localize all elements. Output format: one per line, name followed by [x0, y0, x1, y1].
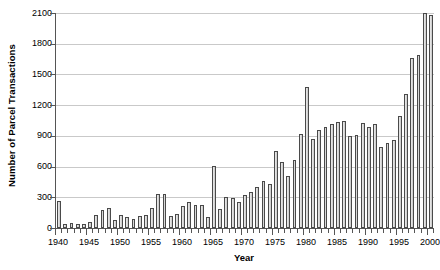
- x-tick: [433, 228, 434, 233]
- bar: [255, 187, 259, 228]
- bar: [286, 176, 290, 228]
- x-tick: [402, 228, 403, 233]
- x-tick-label-1990: 1990: [358, 237, 378, 247]
- y-tick-label-1800: 1800: [32, 39, 52, 48]
- bar: [156, 194, 160, 228]
- bar: [361, 123, 365, 228]
- x-tick: [80, 228, 81, 233]
- bar: [181, 206, 185, 228]
- bar: [187, 202, 191, 228]
- x-tick: [334, 228, 335, 235]
- x-tick: [321, 228, 322, 233]
- x-tick: [266, 228, 267, 233]
- x-tick: [154, 228, 155, 233]
- bar: [417, 55, 421, 228]
- bar: [342, 121, 346, 229]
- x-axis-tick-labels: 1940194519501955196019651970197519801985…: [55, 237, 433, 251]
- bar: [410, 58, 414, 228]
- x-tick-label-2000: 2000: [420, 237, 440, 247]
- x-tick: [179, 228, 180, 235]
- y-axis-tick-labels: 03006009001200150018002100: [22, 0, 52, 235]
- x-tick: [105, 228, 106, 233]
- x-tick-label-1975: 1975: [265, 237, 285, 247]
- x-tick: [204, 228, 205, 233]
- x-tick: [241, 228, 242, 235]
- x-tick: [216, 228, 217, 233]
- x-tick: [222, 228, 223, 233]
- x-tick: [359, 228, 360, 233]
- x-tick: [290, 228, 291, 233]
- x-tick: [315, 228, 316, 233]
- x-tick: [86, 228, 87, 235]
- x-tick: [377, 228, 378, 233]
- bar: [373, 124, 377, 228]
- x-tick: [98, 228, 99, 233]
- bar: [237, 202, 241, 228]
- bar: [194, 205, 198, 228]
- bar: [206, 217, 210, 228]
- bar: [132, 219, 136, 228]
- x-tick: [167, 228, 168, 233]
- x-tick: [55, 228, 56, 235]
- x-tick: [414, 228, 415, 233]
- x-tick: [198, 228, 199, 233]
- x-tick-label-1960: 1960: [172, 237, 192, 247]
- x-tick-label-1955: 1955: [141, 237, 161, 247]
- bar: [398, 116, 402, 228]
- x-tick: [148, 228, 149, 235]
- x-tick: [284, 228, 285, 233]
- bar: [386, 143, 390, 228]
- bar: [200, 205, 204, 228]
- bar: [355, 135, 359, 228]
- x-tick: [272, 228, 273, 235]
- bar: [175, 214, 179, 228]
- bar: [268, 184, 272, 228]
- x-axis-ticks: [55, 228, 433, 236]
- x-tick: [421, 228, 422, 233]
- x-tick: [253, 228, 254, 233]
- x-tick: [173, 228, 174, 233]
- x-tick-label-1965: 1965: [203, 237, 223, 247]
- bar: [94, 215, 98, 228]
- x-tick: [303, 228, 304, 235]
- x-tick: [61, 228, 62, 233]
- x-tick: [352, 228, 353, 233]
- bar: [212, 166, 216, 228]
- bar: [113, 220, 117, 228]
- bar: [262, 181, 266, 228]
- x-tick: [328, 228, 329, 233]
- bar: [379, 147, 383, 228]
- x-tick-label-1945: 1945: [79, 237, 99, 247]
- x-tick-label-1985: 1985: [327, 237, 347, 247]
- bar: [299, 134, 303, 228]
- bar: [138, 216, 142, 228]
- y-tick-label-1500: 1500: [32, 70, 52, 79]
- bar: [119, 215, 123, 228]
- bar: [280, 162, 284, 228]
- bar: [249, 192, 253, 228]
- x-tick: [129, 228, 130, 233]
- x-tick: [371, 228, 372, 233]
- x-tick-label-1970: 1970: [234, 237, 254, 247]
- x-tick: [408, 228, 409, 233]
- bar: [429, 15, 433, 228]
- x-tick: [297, 228, 298, 233]
- bar: [150, 208, 154, 228]
- x-tick: [427, 228, 428, 235]
- x-tick: [383, 228, 384, 233]
- x-tick-label-1980: 1980: [296, 237, 316, 247]
- y-axis-title-text: Number of Parcel Transactions: [6, 44, 17, 187]
- x-tick-label-1995: 1995: [389, 237, 409, 247]
- y-tick-label-2100: 2100: [32, 9, 52, 18]
- bar: [311, 139, 315, 228]
- x-tick: [340, 228, 341, 233]
- x-tick: [160, 228, 161, 233]
- bar: [392, 140, 396, 228]
- x-tick: [309, 228, 310, 233]
- x-tick: [247, 228, 248, 233]
- x-tick: [278, 228, 279, 233]
- bar: [101, 210, 105, 228]
- bar: [231, 198, 235, 228]
- x-tick: [142, 228, 143, 233]
- plot-area: [55, 13, 433, 228]
